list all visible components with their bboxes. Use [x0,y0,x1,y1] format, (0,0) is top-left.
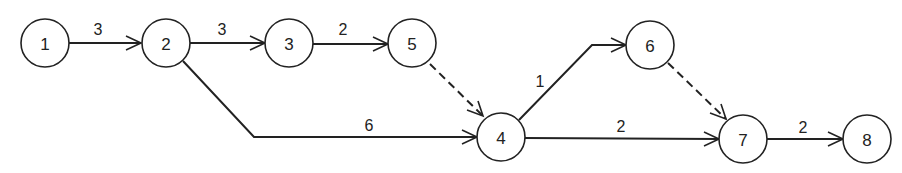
edge-4-7: 2 [525,118,719,146]
network-diagram: 3 3 2 6 [0,0,902,173]
node-label: 6 [645,37,654,56]
edge-label: 2 [799,119,808,136]
node-7: 7 [719,115,767,163]
node-2: 2 [142,19,190,67]
nodes: 1 2 3 5 4 6 7 [21,19,891,163]
edge-1-2: 3 [69,21,141,50]
edge-4-6: 1 [519,38,626,120]
edge-label: 3 [218,21,227,38]
edge-label: 3 [94,21,103,38]
node-4: 4 [477,113,525,161]
node-label: 8 [862,131,871,150]
edge-2-4: 6 [183,61,477,144]
node-8: 8 [843,115,891,163]
node-label: 3 [284,35,293,54]
edge-3-5: 2 [313,21,388,51]
node-label: 7 [738,131,747,150]
node-label: 2 [161,35,170,54]
node-1: 1 [21,19,69,67]
edge-label: 1 [536,73,545,90]
edge-label: 2 [617,118,626,135]
edge-7-8: 2 [767,119,843,146]
node-5: 5 [388,19,436,67]
node-label: 4 [496,129,505,148]
node-label: 1 [40,35,49,54]
node-label: 5 [407,35,416,54]
node-6: 6 [626,21,674,69]
edge-5-4-dummy [430,64,483,116]
edge-6-7-dummy [668,63,726,119]
edge-2-3: 3 [190,21,265,50]
edge-label: 2 [339,21,348,38]
edge-label: 6 [365,117,374,134]
node-3: 3 [265,19,313,67]
